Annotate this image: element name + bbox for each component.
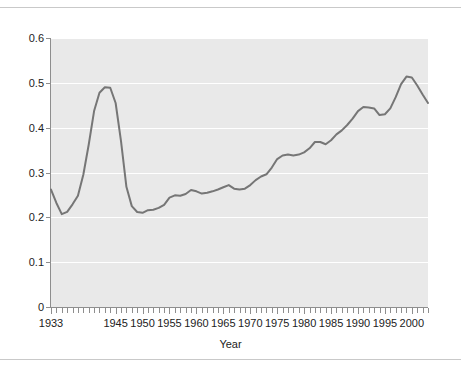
- x-tick-label: 1985: [319, 318, 343, 329]
- x-tick-label: 1995: [373, 318, 397, 329]
- x-tick-label: 1990: [346, 318, 370, 329]
- x-tick-label: 1970: [238, 318, 262, 329]
- x-tick-label: 1975: [265, 318, 289, 329]
- x-tick-label: 1955: [157, 318, 181, 329]
- x-tick-label: 1980: [292, 318, 316, 329]
- x-tick-labels: 1933194519501955196019651970197519801985…: [0, 0, 461, 368]
- chart-figure: 00.10.20.30.40.50.6 19331945195019551960…: [0, 0, 461, 368]
- x-tick-label: 1933: [39, 318, 63, 329]
- x-axis-title: Year: [0, 338, 461, 350]
- x-tick-label: 1950: [130, 318, 154, 329]
- x-tick-label: 2000: [400, 318, 424, 329]
- x-tick-label: 1965: [211, 318, 235, 329]
- x-tick-label: 1945: [103, 318, 127, 329]
- x-tick-label: 1960: [184, 318, 208, 329]
